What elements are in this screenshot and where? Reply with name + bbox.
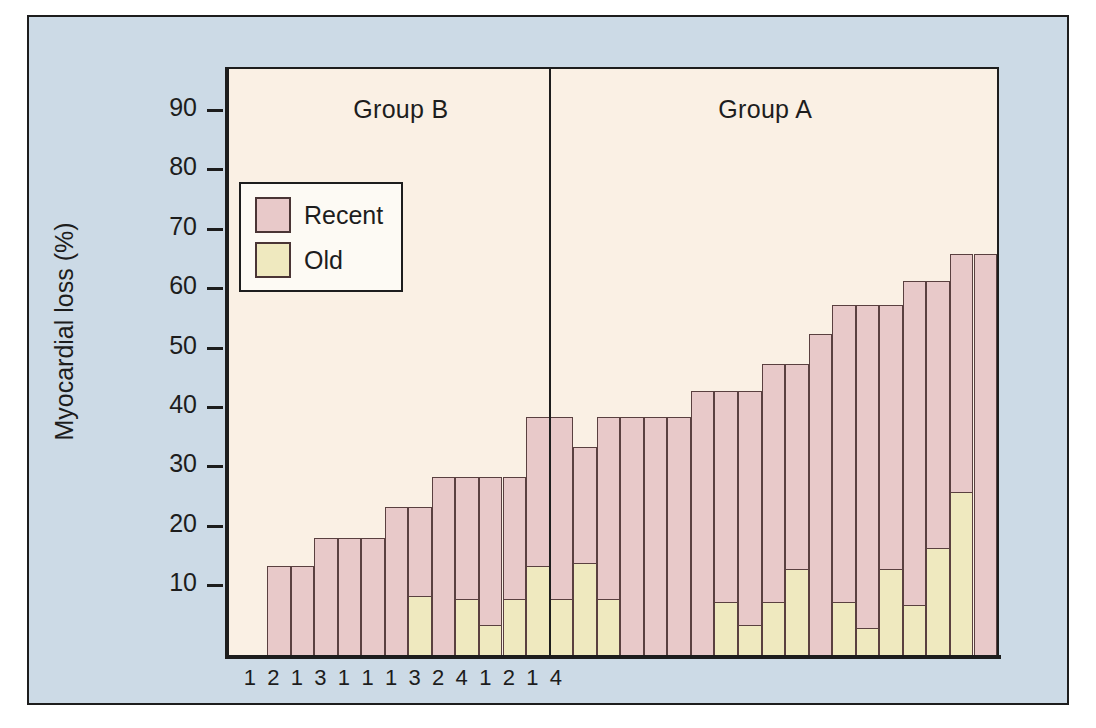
bar-11 bbox=[503, 477, 527, 655]
bar-28-old-segment bbox=[904, 605, 926, 655]
y-tick-label-70: 70 bbox=[137, 212, 197, 241]
figure-root: Myocardial loss (%) 908070605040302010 1… bbox=[0, 0, 1096, 728]
bar-14-old-segment bbox=[574, 563, 596, 655]
x-tick-label-4: 3 bbox=[308, 665, 332, 691]
bar-21 bbox=[738, 391, 762, 655]
legend-item-old: Old bbox=[255, 242, 343, 278]
bar-13-old-segment bbox=[551, 599, 573, 655]
plot-inner: Group B Group A Recent Old bbox=[229, 69, 997, 655]
y-tick-20 bbox=[207, 525, 223, 528]
y-tick-10 bbox=[207, 584, 223, 587]
bar-3 bbox=[314, 538, 338, 655]
bar-9 bbox=[455, 477, 479, 655]
plot-area: Group B Group A Recent Old bbox=[227, 67, 999, 657]
x-tick-label-3: 1 bbox=[285, 665, 309, 691]
bar-30-old-segment bbox=[951, 492, 973, 655]
legend-box: Recent Old bbox=[239, 182, 403, 292]
bar-30 bbox=[950, 254, 974, 655]
bar-24 bbox=[809, 334, 833, 655]
bar-29-old-segment bbox=[927, 548, 949, 655]
y-tick-label-80: 80 bbox=[137, 152, 197, 181]
y-tick-label-40: 40 bbox=[137, 390, 197, 419]
bar-26-old-segment bbox=[857, 628, 879, 655]
y-tick-30 bbox=[207, 465, 223, 468]
bar-22 bbox=[762, 364, 786, 655]
bar-12-old-segment bbox=[527, 566, 549, 655]
y-tick-label-90: 90 bbox=[137, 93, 197, 122]
bar-7 bbox=[408, 507, 432, 656]
bar-25-old-segment bbox=[833, 602, 855, 655]
legend-item-recent: Recent bbox=[255, 197, 383, 233]
y-tick-label-30: 30 bbox=[137, 449, 197, 478]
y-tick-label-10: 10 bbox=[137, 568, 197, 597]
bar-12 bbox=[526, 417, 550, 655]
y-tick-label-60: 60 bbox=[137, 271, 197, 300]
bar-15-old-segment bbox=[598, 599, 620, 655]
y-axis-title: Myocardial loss (%) bbox=[50, 122, 79, 542]
bar-5 bbox=[361, 538, 385, 655]
group-b-title: Group B bbox=[353, 95, 448, 124]
bar-26 bbox=[856, 305, 880, 655]
x-tick-label-10: 4 bbox=[450, 665, 474, 691]
y-tick-70 bbox=[207, 228, 223, 231]
bar-22-old-segment bbox=[763, 602, 785, 655]
bar-10 bbox=[479, 477, 503, 655]
bar-19 bbox=[691, 391, 715, 655]
x-tick-label-2: 2 bbox=[261, 665, 285, 691]
bar-7-old-segment bbox=[409, 596, 431, 655]
bar-27-old-segment bbox=[880, 569, 902, 655]
legend-label-recent: Recent bbox=[304, 197, 383, 233]
bar-17 bbox=[644, 417, 668, 655]
x-tick-label-5: 1 bbox=[332, 665, 356, 691]
bar-1 bbox=[267, 566, 291, 655]
bar-6 bbox=[385, 507, 409, 656]
bar-21-old-segment bbox=[739, 625, 761, 655]
figure-panel: Myocardial loss (%) 908070605040302010 1… bbox=[27, 15, 1069, 705]
x-tick-label-7: 1 bbox=[379, 665, 403, 691]
y-tick-label-50: 50 bbox=[137, 331, 197, 360]
x-tick-label-1: 1 bbox=[238, 665, 262, 691]
bar-15 bbox=[597, 417, 621, 655]
bar-10-old-segment bbox=[480, 625, 502, 655]
y-tick-80 bbox=[207, 168, 223, 171]
bar-series-container bbox=[229, 67, 997, 655]
bar-27 bbox=[879, 305, 903, 655]
x-tick-label-13: 1 bbox=[520, 665, 544, 691]
legend-swatch-old bbox=[255, 242, 291, 278]
group-a-title: Group A bbox=[718, 95, 812, 124]
bar-13 bbox=[550, 417, 574, 655]
bar-11-old-segment bbox=[504, 599, 526, 655]
bar-29 bbox=[926, 281, 950, 655]
x-tick-label-14: 4 bbox=[544, 665, 568, 691]
bar-23-old-segment bbox=[786, 569, 808, 655]
legend-swatch-recent bbox=[255, 197, 291, 233]
bar-20 bbox=[714, 391, 738, 655]
x-tick-label-6: 1 bbox=[356, 665, 380, 691]
bar-8 bbox=[432, 477, 456, 655]
bar-18 bbox=[667, 417, 691, 655]
bar-9-old-segment bbox=[456, 599, 478, 655]
bar-16 bbox=[620, 417, 644, 655]
y-tick-90 bbox=[207, 109, 223, 112]
bar-14 bbox=[573, 447, 597, 655]
y-tick-label-20: 20 bbox=[137, 509, 197, 538]
bar-23 bbox=[785, 364, 809, 655]
bar-31 bbox=[974, 254, 998, 655]
bar-2 bbox=[291, 566, 315, 655]
legend-label-old: Old bbox=[304, 242, 343, 278]
y-tick-40 bbox=[207, 406, 223, 409]
bar-25 bbox=[832, 305, 856, 655]
bar-4 bbox=[338, 538, 362, 655]
bar-28 bbox=[903, 281, 927, 655]
x-tick-label-11: 1 bbox=[473, 665, 497, 691]
bar-20-old-segment bbox=[715, 602, 737, 655]
x-tick-label-12: 2 bbox=[497, 665, 521, 691]
group-divider-line bbox=[549, 69, 551, 657]
y-tick-60 bbox=[207, 287, 223, 290]
x-tick-label-9: 2 bbox=[426, 665, 450, 691]
x-tick-label-8: 3 bbox=[403, 665, 427, 691]
y-tick-50 bbox=[207, 347, 223, 350]
